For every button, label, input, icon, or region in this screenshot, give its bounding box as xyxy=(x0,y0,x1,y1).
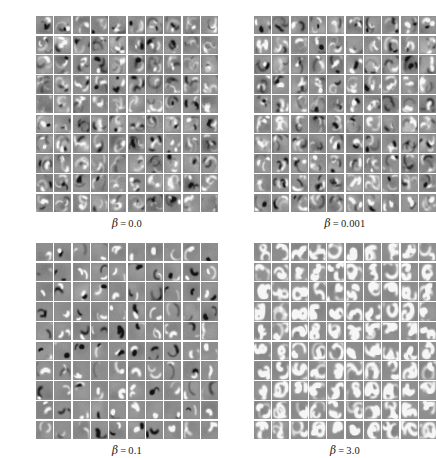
sample-tile xyxy=(346,36,363,54)
sample-tile xyxy=(327,95,344,113)
sample-tile xyxy=(164,342,181,360)
sample-tile xyxy=(364,302,381,320)
sample-tile xyxy=(146,421,163,439)
sample-tile xyxy=(201,401,218,419)
sample-tile xyxy=(346,302,363,320)
sample-tile xyxy=(146,134,163,152)
sample-tile xyxy=(254,361,271,379)
panel-label: β=0.001 xyxy=(254,217,436,229)
sample-tile xyxy=(73,134,90,152)
sample-tile xyxy=(128,16,145,34)
sample-tile xyxy=(109,381,126,399)
sample-tile xyxy=(254,75,271,93)
sample-tile xyxy=(146,361,163,379)
sample-tile xyxy=(54,194,71,212)
sample-tile xyxy=(146,174,163,192)
sample-tile xyxy=(73,174,90,192)
sample-tile xyxy=(54,95,71,113)
sample-tile xyxy=(419,322,436,340)
sample-tile xyxy=(109,243,126,261)
figure-caption xyxy=(0,450,428,458)
sample-tile xyxy=(73,75,90,93)
sample-tile xyxy=(73,55,90,73)
sample-tile xyxy=(382,75,399,93)
sample-tile xyxy=(382,55,399,73)
sample-tile xyxy=(309,36,326,54)
sample-tile xyxy=(54,381,71,399)
sample-tile xyxy=(291,243,308,261)
sample-tile xyxy=(54,361,71,379)
sample-tile xyxy=(109,361,126,379)
sample-tile xyxy=(254,302,271,320)
sample-tile xyxy=(327,16,344,34)
sample-tile xyxy=(364,154,381,172)
sample-tile xyxy=(54,134,71,152)
sample-tile xyxy=(128,174,145,192)
sample-tile xyxy=(54,342,71,360)
sample-tile xyxy=(382,174,399,192)
sample-tile xyxy=(254,282,271,300)
sample-tile xyxy=(128,36,145,54)
sample-tile xyxy=(128,282,145,300)
sample-tile xyxy=(201,421,218,439)
sample-tile xyxy=(183,361,200,379)
sample-tile xyxy=(201,302,218,320)
sample-tile xyxy=(73,342,90,360)
sample-tile xyxy=(364,322,381,340)
sample-tile xyxy=(272,95,289,113)
sample-tile xyxy=(382,115,399,133)
sample-tile xyxy=(109,95,126,113)
sample-tile xyxy=(401,263,418,281)
sample-tile xyxy=(309,322,326,340)
sample-tile xyxy=(254,421,271,439)
sample-tile xyxy=(309,282,326,300)
sample-tile xyxy=(91,194,108,212)
sample-tile xyxy=(91,174,108,192)
sample-tile xyxy=(164,36,181,54)
sample-tile xyxy=(254,243,271,261)
sample-tile xyxy=(109,401,126,419)
sample-tile xyxy=(291,342,308,360)
sample-tile xyxy=(254,342,271,360)
sample-tile xyxy=(109,75,126,93)
sample-tile xyxy=(109,263,126,281)
sample-tile xyxy=(128,75,145,93)
sample-tile xyxy=(201,55,218,73)
sample-tile xyxy=(346,322,363,340)
sample-tile xyxy=(36,243,53,261)
sample-tile xyxy=(346,361,363,379)
sample-tile xyxy=(364,194,381,212)
panel-beta-0001: β=0.001 xyxy=(254,16,436,229)
sample-tile xyxy=(254,154,271,172)
sample-tile xyxy=(401,421,418,439)
sample-tile xyxy=(54,302,71,320)
sample-tile xyxy=(364,401,381,419)
sample-tile xyxy=(291,322,308,340)
sample-tile xyxy=(364,134,381,152)
sample-tile xyxy=(382,381,399,399)
sample-tile xyxy=(327,75,344,93)
sample-tile xyxy=(291,282,308,300)
sample-tile xyxy=(109,55,126,73)
sample-tile xyxy=(146,243,163,261)
sample-tile xyxy=(73,16,90,34)
sample-tile xyxy=(109,174,126,192)
sample-tile xyxy=(327,134,344,152)
sample-tile xyxy=(36,154,53,172)
sample-tile xyxy=(364,421,381,439)
sample-tile xyxy=(382,282,399,300)
sample-tile xyxy=(327,243,344,261)
sample-tile xyxy=(54,16,71,34)
sample-tile xyxy=(254,322,271,340)
sample-tile xyxy=(109,134,126,152)
sample-tile xyxy=(401,243,418,261)
sample-tile xyxy=(146,302,163,320)
sample-tile xyxy=(327,421,344,439)
sample-tile xyxy=(201,75,218,93)
sample-tile xyxy=(272,302,289,320)
sample-tile xyxy=(128,342,145,360)
sample-tile xyxy=(183,95,200,113)
sample-tile xyxy=(254,95,271,113)
sample-tile xyxy=(36,16,53,34)
sample-tile xyxy=(254,263,271,281)
